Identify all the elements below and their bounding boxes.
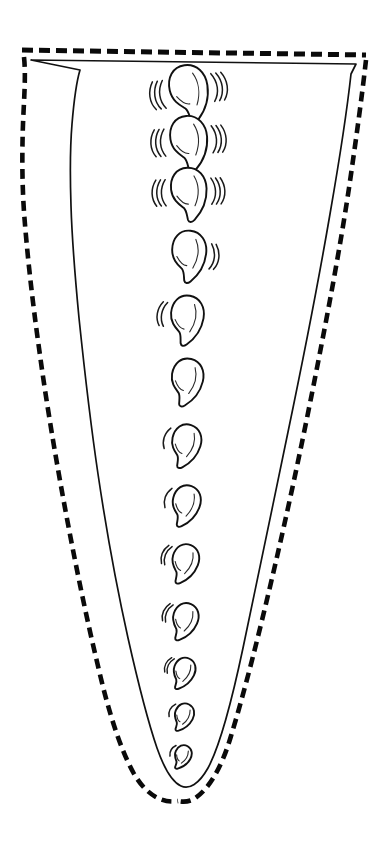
vessel-profile-drawing (0, 0, 390, 843)
figure-root (0, 0, 390, 843)
